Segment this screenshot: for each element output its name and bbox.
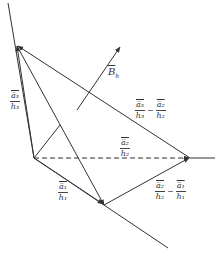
label-a2-h2: a̅₂h₂	[120, 139, 130, 158]
label-B-h: Bh	[108, 68, 119, 80]
short-line	[34, 125, 60, 158]
denominator: h₂	[157, 112, 165, 120]
numerator: a̅₁	[58, 183, 68, 191]
denominator: h₁	[59, 194, 67, 202]
numerator: a̅₂	[155, 182, 165, 190]
label-a3-h3: a̅₃h₃	[10, 92, 20, 111]
vector-a1-h1-arrow	[34, 158, 103, 204]
denominator: h₃	[11, 103, 19, 111]
numerator: a̅₂	[120, 139, 130, 147]
numerator: a̅₂	[156, 101, 166, 109]
diagram-canvas	[0, 0, 217, 258]
minus-sign: −	[167, 188, 174, 196]
minus-sign: −	[147, 107, 154, 115]
label-a1-h1: a̅₁h₁	[58, 183, 68, 202]
h-subscript: h	[115, 72, 119, 79]
numerator: a̅₁	[176, 182, 186, 190]
denominator: h₃	[136, 112, 144, 120]
numerator: a̅₃	[10, 92, 20, 100]
denominator: h₂	[121, 150, 129, 158]
label-diff-32: a̅₃h₃ − a̅₂h₂	[135, 101, 166, 120]
numerator: a̅₃	[135, 101, 145, 109]
denominator: h₂	[156, 193, 164, 201]
label-diff-21: a̅₂h₂ − a̅₁h₁	[155, 182, 186, 201]
denominator: h₁	[177, 193, 185, 201]
